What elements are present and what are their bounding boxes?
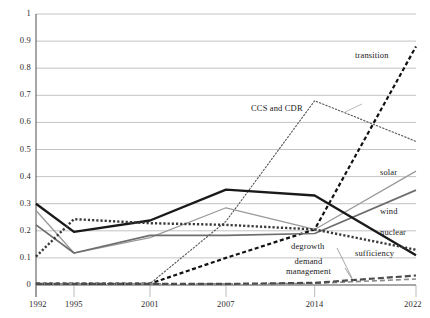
series-label-wind: wind xyxy=(380,206,398,216)
series-label-solar: solar xyxy=(380,167,397,177)
series-label-sufficiency: sufficiency xyxy=(355,248,394,258)
y-tick-0: 0 xyxy=(0,279,31,289)
series-label-line-2: management xyxy=(286,266,331,276)
series-label-transition: transition xyxy=(355,50,389,60)
x-tick-1992: 1992 xyxy=(29,299,47,309)
x-tick-2001: 2001 xyxy=(141,299,159,309)
series-line-solar xyxy=(36,171,416,253)
y-tick-0.6: 0.6 xyxy=(0,116,31,126)
y-tick-0.3: 0.3 xyxy=(0,198,31,208)
y-tick-1: 1 xyxy=(0,8,31,18)
series-label-line-1: demand xyxy=(286,256,331,266)
series-line-demand-management xyxy=(36,276,416,284)
chart-plot-area xyxy=(0,0,430,318)
series-label-demand-management: demandmanagement xyxy=(286,256,331,276)
series-line-nuclear xyxy=(36,190,416,256)
line-chart: 00.10.20.30.40.50.60.70.80.91 1992199520… xyxy=(0,0,430,318)
series-label-ccs-and-cdr: CCS and CDR xyxy=(251,103,303,113)
y-tick-0.9: 0.9 xyxy=(0,35,31,45)
x-tick-2022: 2022 xyxy=(404,299,422,309)
y-tick-0.8: 0.8 xyxy=(0,62,31,72)
y-tick-0.7: 0.7 xyxy=(0,89,31,99)
series-label-nuclear: nuclear xyxy=(380,227,406,237)
y-tick-0.2: 0.2 xyxy=(0,225,31,235)
x-tick-1995: 1995 xyxy=(65,299,83,309)
y-tick-0.4: 0.4 xyxy=(0,171,31,181)
series-label-degrowth: degrowth xyxy=(291,241,324,251)
y-tick-0.5: 0.5 xyxy=(0,144,31,154)
x-tick-marks xyxy=(36,285,416,297)
y-tick-0.1: 0.1 xyxy=(0,252,31,262)
x-tick-2014: 2014 xyxy=(306,299,324,309)
x-tick-2007: 2007 xyxy=(217,299,235,309)
